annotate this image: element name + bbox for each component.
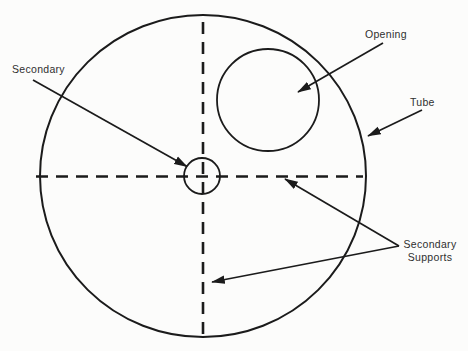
tube-callout-arrow [368,110,422,136]
telescope-tube-diagram: Secondary Opening Tube Secondary Support… [0,0,468,351]
tube-label: Tube [410,96,435,108]
secondary-supports-label-line1: Secondary [404,238,457,250]
diagram-canvas: Secondary Opening Tube Secondary Support… [0,0,468,351]
supports-callout-arrow-upper [285,179,399,246]
secondary-supports-label-line2: Supports [408,251,452,263]
secondary-callout-arrow [33,80,187,167]
opening-label: Opening [365,28,407,40]
supports-callout-arrow-lower [212,246,399,282]
opening-callout-arrow [298,43,383,92]
opening-circle [217,49,319,151]
secondary-label: Secondary [12,63,65,75]
